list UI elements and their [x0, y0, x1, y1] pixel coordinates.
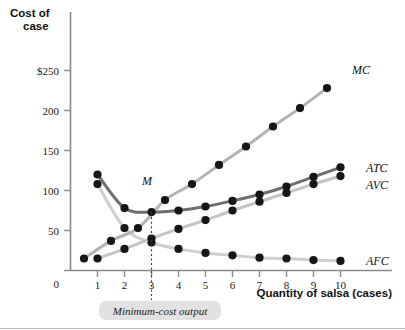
data-point-mc-6.5	[242, 142, 250, 150]
series-atc	[93, 163, 344, 216]
curve-label-afc: AFC	[365, 254, 390, 268]
data-point-avc-10	[336, 172, 344, 180]
series-avc	[93, 172, 344, 263]
x-axis-title: Quantity of salsa (cases)	[257, 287, 393, 299]
data-point-atc-3	[147, 208, 155, 216]
x-tick-label-1: 1	[95, 279, 101, 291]
data-point-atc-7	[255, 190, 263, 198]
minimum-cost-callout-label: Minimum-cost output	[112, 305, 208, 317]
y-axis-title-line2: case	[23, 20, 49, 32]
y-tick-label-200: 200	[43, 105, 60, 117]
data-point-afc-2	[120, 224, 128, 232]
x-tick-label-2: 2	[122, 279, 128, 291]
data-point-avc-2	[120, 245, 128, 253]
minimum-cost-callout: Minimum-cost output	[99, 301, 221, 320]
y-tick-label-50: 50	[48, 225, 60, 237]
data-point-atc-9	[309, 173, 317, 181]
y-axis-ticks	[64, 71, 71, 271]
chart-svg: Cost of case 0 50 100 150 200 $250 12345…	[0, 0, 405, 330]
series-mc	[80, 84, 331, 263]
series-line-atc	[98, 167, 341, 212]
data-point-atc-8	[282, 182, 290, 190]
data-point-atc-5	[201, 202, 209, 210]
y-tick-label-100: 100	[43, 185, 60, 197]
curve-label-mc: MC	[351, 63, 371, 77]
data-point-avc-6	[228, 206, 236, 214]
y-axis-tick-labels: 0 50 100 150 200 $250	[37, 65, 60, 291]
cost-curves-figure: Cost of case 0 50 100 150 200 $250 12345…	[0, 0, 405, 330]
data-point-afc-5	[201, 249, 209, 257]
data-point-atc-4	[174, 206, 182, 214]
data-point-mc-8.5	[296, 104, 304, 112]
data-point-avc-4	[174, 225, 182, 233]
data-point-afc-6	[228, 251, 236, 259]
data-point-mc-1.5	[107, 237, 115, 245]
series-line-mc	[84, 88, 327, 258]
data-point-afc-9	[309, 256, 317, 264]
data-point-mc-4.5	[188, 180, 196, 188]
y-tick-label-250: $250	[37, 65, 60, 77]
x-axis-ticks	[98, 271, 341, 278]
x-tick-label-5: 5	[203, 279, 209, 291]
data-point-atc-10	[336, 163, 344, 171]
curve-label-atc: ATC	[365, 161, 389, 175]
data-point-mc-3.5	[161, 196, 169, 204]
data-point-avc-9	[309, 180, 317, 188]
data-point-afc-8	[282, 254, 290, 262]
y-tick-label-0: 0	[54, 278, 60, 290]
data-point-avc-7	[255, 198, 263, 206]
data-point-afc-4	[174, 245, 182, 253]
series-line-afc	[98, 184, 341, 261]
data-point-mc-0.5	[80, 254, 88, 262]
data-point-avc-5	[201, 216, 209, 224]
data-point-atc-6	[228, 197, 236, 205]
y-axis-title-line1: Cost of	[10, 7, 50, 19]
data-point-atc-2	[120, 204, 128, 212]
series-layer	[80, 84, 345, 265]
data-point-afc-7	[255, 254, 263, 262]
minimum-cost-point-label: M	[141, 174, 153, 188]
data-point-mc-7.5	[269, 122, 277, 130]
data-point-avc-1	[93, 254, 101, 262]
curve-label-avc: AVC	[365, 178, 389, 192]
data-point-afc-1	[93, 180, 101, 188]
y-tick-label-150: 150	[43, 145, 60, 157]
data-point-afc-10	[336, 257, 344, 265]
data-point-mc-9.5	[323, 84, 331, 92]
series-afc	[93, 180, 344, 265]
data-point-mc-2.5	[134, 224, 142, 232]
series-line-avc	[98, 176, 341, 258]
x-tick-label-6: 6	[230, 279, 236, 291]
x-tick-label-4: 4	[176, 279, 182, 291]
data-point-atc-1	[93, 170, 101, 178]
data-point-mc-5.5	[215, 161, 223, 169]
